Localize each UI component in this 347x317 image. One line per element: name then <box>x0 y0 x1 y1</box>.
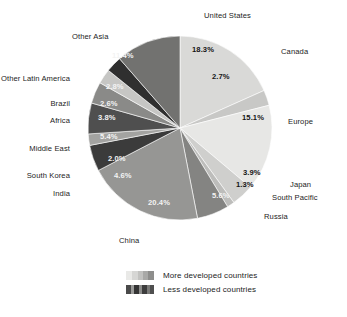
pie-slice-group <box>88 36 272 220</box>
pie-percentage-label: 5.6% <box>212 192 230 200</box>
legend-swatch-less-developed <box>126 285 154 294</box>
pie-percentage-label: 4.6% <box>114 172 132 180</box>
pie-category-label: Japan <box>290 181 311 189</box>
pie-category-label: South Korea <box>0 172 70 180</box>
pie-percentage-label: 1.3% <box>236 181 254 189</box>
pie-category-label: Canada <box>281 48 308 56</box>
legend-label-more-developed: More developed countries <box>163 271 257 280</box>
pie-chart-figure: United StatesCanadaEuropeJapanSouth Paci… <box>0 0 347 317</box>
pie-percentage-label: 2.6% <box>100 100 118 108</box>
legend-item-more-developed: More developed countries <box>0 268 347 282</box>
pie-category-label: Brazil <box>0 100 70 108</box>
pie-percentage-label: 2.7% <box>212 73 230 81</box>
pie-category-label: Europe <box>288 118 313 126</box>
pie-category-label: China <box>119 237 139 245</box>
pie-category-label: South Pacific <box>272 194 318 202</box>
pie-percentage-label: 5.4% <box>100 133 118 141</box>
pie-percentage-label: 2.0% <box>108 155 126 163</box>
pie-percentage-label: 3.9% <box>243 169 261 177</box>
legend-swatch-more-developed <box>126 271 154 280</box>
chart-legend: More developed countries Less developed … <box>0 268 347 296</box>
pie-category-label: Africa <box>0 117 70 125</box>
pie-category-label: Other Asia <box>72 33 108 41</box>
pie-percentage-label: 15.1% <box>242 114 264 122</box>
pie-category-label: India <box>0 190 70 198</box>
pie-category-label: Other Latin America <box>0 75 70 83</box>
pie-percentage-label: 20.4% <box>148 199 170 207</box>
pie-category-label: Russia <box>264 213 288 221</box>
pie-chart-canvas <box>0 0 347 260</box>
pie-category-label: United States <box>204 12 251 20</box>
pie-percentage-label: 3.8% <box>98 114 116 122</box>
pie-percentage-label: 11.4% <box>112 52 134 60</box>
pie-percentage-label: 2.8% <box>106 83 124 91</box>
legend-item-less-developed: Less developed countries <box>0 282 347 296</box>
pie-percentage-label: 18.3% <box>192 46 214 54</box>
legend-label-less-developed: Less developed countries <box>163 285 256 294</box>
pie-category-label: Middle East <box>0 145 70 153</box>
